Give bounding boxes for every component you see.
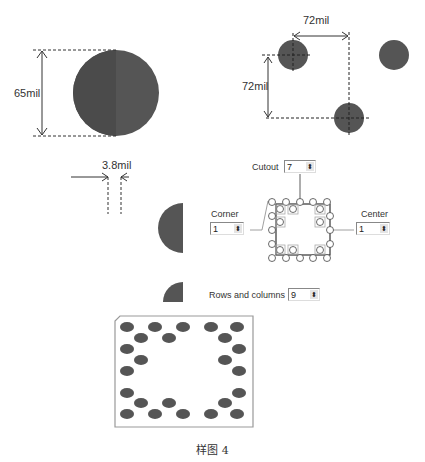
pad-pitch-figure — [262, 32, 409, 135]
spin-updown-icon[interactable]: ⬍ — [234, 224, 242, 233]
rows-columns-label: Rows and columns — [209, 290, 285, 300]
corner-label: Corner — [211, 209, 239, 219]
cutout-value: 7 — [287, 162, 292, 172]
package-preview — [115, 316, 253, 427]
center-spinbox[interactable]: 1 ⬍ — [356, 222, 390, 235]
corner-value: 1 — [213, 224, 218, 234]
center-label: Center — [361, 209, 388, 219]
pitch-vertical-label: 72mil — [242, 80, 268, 92]
figure-caption: 样图 4 — [0, 441, 425, 457]
clearance-label: 3.8mil — [102, 159, 131, 171]
pad-diameter-figure — [33, 50, 159, 136]
spin-updown-icon[interactable]: ⬍ — [310, 290, 318, 299]
corner-spinbox[interactable]: 1 ⬍ — [210, 222, 244, 235]
rows-columns-value: 9 — [291, 290, 296, 300]
cutout-spinbox[interactable]: 7 ⬍ — [284, 160, 316, 173]
cutout-label: Cutout — [252, 162, 279, 172]
pad-diameter-label: 65mil — [14, 87, 40, 99]
clearance-figure — [71, 173, 183, 302]
cutout-grid — [250, 174, 354, 262]
spin-updown-icon[interactable]: ⬍ — [380, 224, 388, 233]
center-value: 1 — [359, 224, 364, 234]
pitch-horizontal-label: 72mil — [303, 14, 329, 26]
spin-updown-icon[interactable]: ⬍ — [306, 162, 314, 171]
rows-columns-spinbox[interactable]: 9 ⬍ — [288, 288, 320, 301]
